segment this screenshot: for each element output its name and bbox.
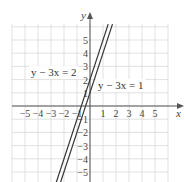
- y-axis-arrow-icon: [87, 12, 93, 19]
- equation-label: y − 3x = 1: [96, 79, 145, 92]
- x-tick-label: 1: [101, 108, 106, 119]
- equation-text: y − 3x = 2: [31, 66, 76, 78]
- x-tick-label: −3: [46, 108, 57, 119]
- y-tick-label: −2: [77, 127, 88, 138]
- x-tick-label: −5: [20, 108, 31, 119]
- y-tick-label: −4: [77, 154, 88, 165]
- coordinate-plane: x y −5−4−3−2−11234554321−1−2−3−4−5 y − 3…: [0, 0, 194, 182]
- x-axis-label: x: [175, 107, 181, 119]
- y-tick-label: 2: [83, 75, 88, 86]
- x-tick-label: 5: [153, 108, 158, 119]
- y-tick-label: 5: [83, 35, 88, 46]
- y-axis-label: y: [80, 9, 86, 21]
- y-tick-label: 4: [83, 48, 88, 59]
- x-tick-label: 2: [114, 108, 119, 119]
- y-tick-label: −3: [77, 141, 88, 152]
- y-tick-label: 3: [83, 61, 88, 72]
- equation-label: y − 3x = 2: [29, 66, 78, 79]
- x-tick-label: −2: [59, 108, 70, 119]
- x-tick-label: 4: [140, 108, 145, 119]
- y-tick-label: −5: [77, 167, 88, 178]
- equation-text: y − 3x = 1: [98, 79, 143, 91]
- x-tick-label: −4: [33, 108, 44, 119]
- x-tick-label: 3: [127, 108, 132, 119]
